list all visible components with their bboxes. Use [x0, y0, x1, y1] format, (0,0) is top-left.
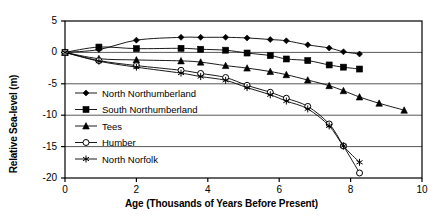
legend-label-1: South Northumberland: [102, 104, 198, 115]
x-tick-label: 4: [196, 185, 220, 195]
data-point-south-northumberland: [340, 64, 346, 70]
data-point-humber: [357, 170, 363, 176]
data-point-north-northumberland: [305, 42, 311, 48]
y-tick-label: 0: [31, 47, 57, 57]
chart-figure: Relative Sea-level (m) Age (Thousands of…: [0, 0, 443, 221]
x-tick-label: 8: [339, 185, 363, 195]
y-tick-label: -5: [31, 79, 57, 89]
data-point-south-northumberland: [357, 66, 363, 72]
data-point-south-northumberland: [223, 47, 229, 53]
legend-label-0: North Northumberland: [102, 88, 196, 99]
y-tick-label: -10: [31, 110, 57, 120]
data-point-north-northumberland: [223, 34, 229, 40]
data-point-south-northumberland: [198, 46, 204, 52]
data-point-north-northumberland: [340, 49, 346, 55]
legend-label-2: Tees: [102, 121, 122, 132]
x-tick-label: 2: [124, 185, 148, 195]
data-point-north-northumberland: [244, 35, 250, 41]
data-point-south-northumberland: [244, 50, 250, 56]
data-point-tees: [340, 87, 347, 93]
data-point-south-northumberland: [267, 53, 273, 59]
legend-label-4: North Norfolk: [102, 154, 158, 165]
data-point-south-northumberland: [178, 45, 184, 51]
data-point-north-northumberland: [267, 37, 273, 43]
data-point-south-northumberland: [133, 46, 139, 52]
data-point-north-northumberland: [178, 34, 184, 40]
data-point-north-northumberland: [133, 37, 139, 43]
data-point-south-northumberland: [283, 56, 289, 62]
data-point-north-northumberland: [326, 45, 332, 51]
data-point-north-northumberland: [283, 38, 289, 44]
legend-marker-1: [83, 107, 89, 113]
data-point-south-northumberland: [96, 44, 102, 50]
legend-marker-3: [83, 140, 89, 146]
data-point-tees: [376, 100, 383, 106]
y-tick-label: 5: [31, 16, 57, 26]
x-tick-label: 0: [53, 185, 77, 195]
legend-marker-0: [83, 90, 89, 96]
x-tick-label: 10: [410, 185, 434, 195]
series-line-tees: [65, 52, 404, 110]
y-tick-label: -20: [31, 173, 57, 183]
data-point-south-northumberland: [326, 62, 332, 68]
data-point-north-northumberland: [357, 51, 363, 57]
x-tick-label: 6: [267, 185, 291, 195]
data-point-north-northumberland: [198, 34, 204, 40]
y-tick-label: -15: [31, 142, 57, 152]
data-point-south-northumberland: [305, 58, 311, 64]
legend-label-3: Humber: [102, 137, 136, 148]
series-line-north-northumberland: [65, 37, 360, 54]
series-line-south-northumberland: [65, 47, 360, 69]
data-point-tees: [356, 94, 363, 100]
